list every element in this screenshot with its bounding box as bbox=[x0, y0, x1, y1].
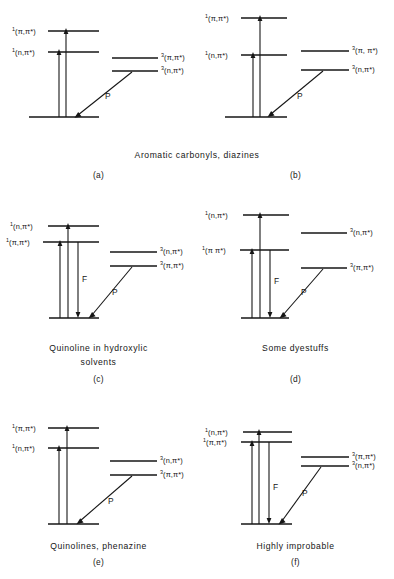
fluorescence-label: F bbox=[273, 482, 278, 492]
panel-f: F P 1(n,π*) 1(π,π*) 3(π,π*) 3(n,π*) bbox=[197, 400, 394, 579]
panel-letter-c: (c) bbox=[0, 374, 197, 384]
label-triplet-pipi: 3(π, π*) bbox=[352, 45, 378, 55]
caption-c-line2: solvents bbox=[0, 357, 197, 367]
panel-a-diagram: P 1(π,π*) 1(n,π*) 3(π,π*) 3(n,π*) bbox=[0, 0, 197, 190]
caption-ab: Aromatic carbonyls, diazines bbox=[0, 150, 394, 160]
label-triplet-npi: 3(n,π*) bbox=[352, 64, 375, 74]
phosphorescence-label: P bbox=[302, 488, 308, 498]
label-triplet-pipi: 3(π,π*) bbox=[352, 451, 376, 461]
caption-d: Some dyestuffs bbox=[197, 343, 394, 353]
panel-letter-e: (e) bbox=[0, 557, 197, 567]
panel-letter-d: (d) bbox=[197, 374, 394, 384]
absorption-arrowhead-1 bbox=[58, 240, 63, 246]
panel-letter-b: (b) bbox=[197, 170, 394, 180]
label-triplet-npi: 3(n,π*) bbox=[352, 460, 375, 470]
panel-e-diagram: P 1(π,π*) 1(n,π*) 3(n,π*) 3(π,π*) bbox=[0, 400, 197, 579]
label-triplet-pipi: 3(π,π*) bbox=[160, 260, 184, 270]
panel-b-diagram: P 1(π,π*) 1(n,π*) 3(π, π*) 3(n,π*) bbox=[197, 0, 394, 190]
label-singlet-npi: 1(n,π*) bbox=[10, 221, 33, 231]
energy-level-diagram-figure: P 1(π,π*) 1(n,π*) 3(π,π*) 3(n,π*) P 1(π,… bbox=[0, 0, 394, 579]
fluorescence-arrowhead bbox=[76, 312, 81, 318]
label-singlet-npi: 1(n,π*) bbox=[12, 443, 35, 453]
phosphorescence-label: P bbox=[301, 287, 307, 297]
caption-e: Quinolines, phenazine bbox=[0, 541, 197, 551]
absorption-arrowhead-1 bbox=[250, 440, 255, 446]
label-singlet-npi: 1(n,π*) bbox=[205, 50, 228, 60]
label-singlet-npi: 1(n,π*) bbox=[205, 210, 228, 220]
panel-b: P 1(π,π*) 1(n,π*) 3(π, π*) 3(n,π*) bbox=[197, 0, 394, 190]
label-singlet-pipi: 1(π,π*) bbox=[203, 437, 227, 447]
phosphorescence-arrow bbox=[80, 476, 132, 521]
label-triplet-pipi: 3(π,π*) bbox=[161, 52, 185, 62]
label-triplet-npi: 3(n,π*) bbox=[160, 246, 183, 256]
phosphorescence-label: P bbox=[112, 287, 118, 297]
panel-f-diagram: F P 1(n,π*) 1(π,π*) 3(π,π*) 3(n,π*) bbox=[197, 400, 394, 579]
panel-e: P 1(π,π*) 1(n,π*) 3(n,π*) 3(π,π*) bbox=[0, 400, 197, 579]
phosphorescence-label: P bbox=[297, 91, 303, 101]
absorption-arrowhead-1 bbox=[250, 248, 255, 254]
phosphorescence-label: P bbox=[108, 496, 114, 506]
label-singlet-pipi: 1(π,π*) bbox=[12, 423, 36, 433]
phosphorescence-label: P bbox=[105, 91, 111, 101]
fluorescence-arrowhead bbox=[267, 518, 272, 524]
panel-letter-f: (f) bbox=[197, 557, 394, 567]
label-triplet-pipi: 3(π,π*) bbox=[160, 469, 184, 479]
label-singlet-pipi: 1(π,π*) bbox=[12, 26, 36, 36]
fluorescence-arrowhead bbox=[268, 312, 273, 318]
label-singlet-pipi: 1(π,π*) bbox=[6, 237, 30, 247]
caption-f: Highly improbable bbox=[197, 541, 394, 551]
label-singlet-npi: 1(n,π*) bbox=[12, 47, 35, 57]
panel-a: P 1(π,π*) 1(n,π*) 3(π,π*) 3(n,π*) bbox=[0, 0, 197, 190]
label-singlet-pipi: 1(π,π*) bbox=[205, 13, 229, 23]
fluorescence-label: F bbox=[82, 274, 87, 284]
label-singlet-pipi: 1(π π*) bbox=[202, 245, 226, 255]
caption-c-line1: Quinoline in hydroxylic bbox=[0, 343, 197, 353]
label-triplet-npi: 3(n,π*) bbox=[161, 65, 184, 75]
label-triplet-npi: 3(n,π*) bbox=[350, 227, 373, 237]
panel-letter-a: (a) bbox=[0, 170, 197, 180]
label-triplet-npi: 3(n,π*) bbox=[160, 455, 183, 465]
fluorescence-label: F bbox=[274, 276, 279, 286]
label-singlet-npi: 1(n,π*) bbox=[205, 427, 228, 437]
label-triplet-pipi: 3(π,π*) bbox=[350, 262, 374, 272]
